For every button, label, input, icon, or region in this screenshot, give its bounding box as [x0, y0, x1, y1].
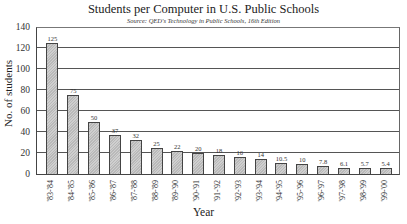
- x-tick-label: '92-'93: [234, 180, 243, 202]
- bar: [338, 168, 350, 174]
- gridline: [37, 47, 399, 48]
- bar: [296, 164, 308, 175]
- bar-value-label: 75: [61, 87, 85, 94]
- x-axis-label: Year: [0, 206, 407, 218]
- bar: [46, 43, 58, 174]
- bar: [275, 163, 287, 174]
- y-axis-label: No. of students: [2, 60, 14, 127]
- x-tick-label: '98-'99: [359, 180, 368, 202]
- y-tick-label: 40: [0, 127, 30, 137]
- y-tick-label: 20: [0, 148, 30, 158]
- bar: [67, 95, 79, 174]
- y-tick-label: 120: [0, 43, 30, 53]
- gridline: [37, 110, 399, 111]
- bar: [359, 168, 371, 174]
- x-tick-label: '93-'94: [255, 180, 264, 202]
- x-tick-label: '88-'89: [151, 180, 160, 202]
- bar: [192, 153, 204, 174]
- y-tick-label: 140: [0, 22, 30, 32]
- gridline: [37, 89, 399, 90]
- bar: [88, 122, 100, 175]
- y-tick-label: 0: [0, 169, 30, 179]
- chart-title: Students per Computer in U.S. Public Sch…: [0, 2, 407, 17]
- x-tick-label: '97-'98: [338, 180, 347, 202]
- bar: [380, 168, 392, 174]
- gridline: [37, 68, 399, 69]
- x-tick-label: '87-'88: [130, 180, 139, 202]
- x-tick-label: '99-'00: [380, 180, 389, 202]
- bar-value-label: 32: [124, 132, 148, 139]
- x-tick-label: '83-'84: [46, 180, 55, 202]
- bar: [234, 157, 246, 174]
- bar: [255, 159, 267, 174]
- x-tick-label: '91-'92: [213, 180, 222, 202]
- x-tick-label: '89-'90: [171, 180, 180, 202]
- bar: [130, 140, 142, 174]
- bar: [151, 148, 163, 174]
- bar: [109, 135, 121, 174]
- bar-value-label: 5.4: [374, 160, 398, 167]
- bar: [213, 155, 225, 174]
- x-tick-label: '84-'85: [67, 180, 76, 202]
- bar-value-label: 125: [40, 35, 64, 42]
- chart-subtitle: Source: QED's Technology in Public Schoo…: [0, 17, 407, 24]
- bar-value-label: 50: [82, 114, 106, 121]
- x-tick-label: '85-'86: [88, 180, 97, 202]
- plot-area: 1257550373225222018161410.5107.86.15.75.…: [36, 27, 400, 175]
- x-tick-label: '90-'91: [192, 180, 201, 202]
- x-tick-label: '95-'96: [296, 180, 305, 202]
- x-tick-label: '94-'95: [275, 180, 284, 202]
- x-tick-label: '86-'87: [109, 180, 118, 202]
- x-tick-label: '96-'97: [317, 180, 326, 202]
- bar: [171, 151, 183, 174]
- bar: [317, 166, 329, 174]
